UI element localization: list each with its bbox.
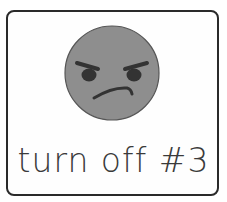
card-label: turn off #3 [0, 141, 227, 180]
